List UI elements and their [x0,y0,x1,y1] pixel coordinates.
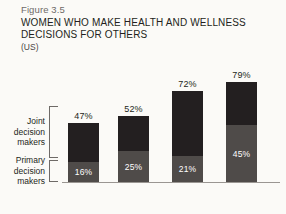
legend-bracket-primary [49,160,58,182]
bar-stack: 21% [172,91,203,182]
legend-label-joint: Joint decision makers [0,116,45,148]
bar-stack: 45% [226,82,257,182]
x-axis-line [62,182,280,183]
bar-segment-label: 45% [226,149,257,159]
bar-segment-primary: 45% [226,125,257,182]
bar-segment-label: 21% [172,164,203,174]
legend-bracket-joint [49,106,58,158]
bar-segment-primary: 16% [68,162,99,182]
bar-total-label: 47% [60,111,107,121]
figure-title: WOMEN WHO MAKE HEALTH AND WELLNESS DECIS… [21,17,271,41]
bar-total-label: 79% [218,70,265,80]
figure-number: Figure 3.5 [21,4,271,16]
bar-segment-joint [68,123,99,162]
bar-segment-label: 25% [118,162,149,172]
figure-subtitle: (US) [21,42,271,53]
bar-segment-primary: 21% [172,156,203,182]
chart-legend-brackets: Joint decision makers Primary decision m… [0,58,62,182]
bar-stack: 16% [68,123,99,182]
chart-plot-area: Joint decision makers Primary decision m… [0,58,286,214]
bar-segment-joint [172,91,203,155]
bar-total-label: 52% [110,104,157,114]
bar-segment-joint [226,82,257,125]
bar-segment-label: 16% [68,167,99,177]
figure-container: Figure 3.5 WOMEN WHO MAKE HEALTH AND WEL… [0,0,286,214]
legend-label-primary: Primary decision makers [0,155,45,187]
bar-total-label: 72% [164,79,211,89]
bar-segment-joint [118,116,149,150]
bar-stack: 25% [118,116,149,182]
figure-header: Figure 3.5 WOMEN WHO MAKE HEALTH AND WEL… [21,4,271,53]
bar-segment-primary: 25% [118,151,149,183]
bar-group: 47% 16% White 52% 25% Black [62,58,280,182]
